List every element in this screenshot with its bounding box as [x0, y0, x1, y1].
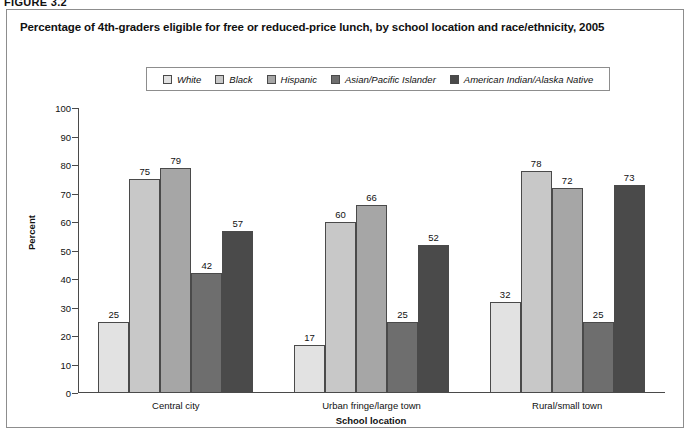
legend-swatch-icon: [163, 75, 172, 84]
y-axis-tick: [72, 279, 78, 280]
legend-item-label: White: [177, 74, 201, 85]
legend-swatch-icon: [450, 75, 459, 84]
bar-value-label: 57: [233, 218, 244, 229]
bar[interactable]: 25: [98, 322, 129, 393]
y-axis-tick-label: 10: [60, 359, 71, 370]
bar-value-label: 17: [304, 332, 315, 343]
y-axis-tick: [72, 393, 78, 394]
y-axis-tick-label: 20: [60, 331, 71, 342]
bar-value-label: 25: [397, 309, 408, 320]
y-axis-tick: [72, 165, 78, 166]
y-axis-tick: [72, 251, 78, 252]
legend-item[interactable]: American Indian/Alaska Native: [450, 74, 593, 85]
bar-value-label: 32: [500, 289, 511, 300]
bar[interactable]: 42: [191, 273, 222, 393]
y-axis-tick: [72, 336, 78, 337]
legend-item[interactable]: Black: [215, 74, 252, 85]
y-axis-tick-label: 70: [60, 188, 71, 199]
y-axis-tick: [72, 137, 78, 138]
legend-item-label: Black: [229, 74, 252, 85]
bar[interactable]: 79: [160, 168, 191, 393]
y-axis-tick: [72, 308, 78, 309]
bar[interactable]: 78: [521, 171, 552, 393]
y-axis-line: [78, 108, 79, 393]
bar[interactable]: 60: [325, 222, 356, 393]
legend-item[interactable]: White: [163, 74, 201, 85]
bar-value-label: 72: [562, 175, 573, 186]
bar[interactable]: 66: [356, 205, 387, 393]
y-axis-tick-label: 50: [60, 245, 71, 256]
y-axis-tick-label: 60: [60, 217, 71, 228]
bar-value-label: 79: [171, 155, 182, 166]
bar[interactable]: 75: [129, 179, 160, 393]
legend-item-label: Hispanic: [281, 74, 317, 85]
legend-item-label: Asian/Pacific Islander: [345, 74, 436, 85]
y-axis-tick-label: 40: [60, 274, 71, 285]
y-axis-title: Percent: [26, 215, 37, 250]
y-axis-tick-label: 80: [60, 160, 71, 171]
x-axis-group-label: Rural/small town: [532, 400, 602, 411]
x-axis-title: School location: [336, 415, 407, 426]
legend-item[interactable]: Hispanic: [267, 74, 317, 85]
bar[interactable]: 57: [222, 231, 253, 393]
y-axis-tick: [72, 108, 78, 109]
bar[interactable]: 72: [552, 188, 583, 393]
y-axis-tick-label: 90: [60, 131, 71, 142]
bar[interactable]: 17: [294, 345, 325, 393]
legend-swatch-icon: [267, 75, 276, 84]
bar-value-label: 78: [531, 158, 542, 169]
bar[interactable]: 32: [490, 302, 521, 393]
chart-title: Percentage of 4th-graders eligible for f…: [20, 21, 604, 33]
legend-swatch-icon: [215, 75, 224, 84]
bar-value-label: 25: [593, 309, 604, 320]
bar-value-label: 60: [335, 209, 346, 220]
y-axis-tick: [72, 222, 78, 223]
legend-item-label: American Indian/Alaska Native: [464, 74, 593, 85]
bar-value-label: 52: [428, 232, 439, 243]
bar[interactable]: 52: [418, 245, 449, 393]
y-axis-tick-label: 100: [55, 103, 71, 114]
bar-value-label: 73: [624, 172, 635, 183]
bar[interactable]: 25: [387, 322, 418, 393]
y-axis-tick-label: 0: [66, 388, 71, 399]
legend-swatch-icon: [331, 75, 340, 84]
plot-area: 01020304050607080901002575794257Central …: [78, 108, 665, 393]
y-axis-tick: [72, 194, 78, 195]
chart-legend: WhiteBlackHispanicAsian/Pacific Islander…: [146, 67, 610, 91]
y-axis-tick: [72, 365, 78, 366]
bar-value-label: 66: [366, 192, 377, 203]
bar-value-label: 42: [202, 260, 213, 271]
bar-value-label: 25: [109, 309, 120, 320]
figure-number-label: FIGURE 3.2: [4, 0, 67, 8]
bar-value-label: 75: [140, 166, 151, 177]
bar[interactable]: 73: [614, 185, 645, 393]
bar[interactable]: 25: [583, 322, 614, 393]
legend-item[interactable]: Asian/Pacific Islander: [331, 74, 436, 85]
x-axis-group-label: Central city: [152, 400, 200, 411]
y-axis-tick-label: 30: [60, 302, 71, 313]
x-axis-group-label: Urban fringe/large town: [322, 400, 421, 411]
